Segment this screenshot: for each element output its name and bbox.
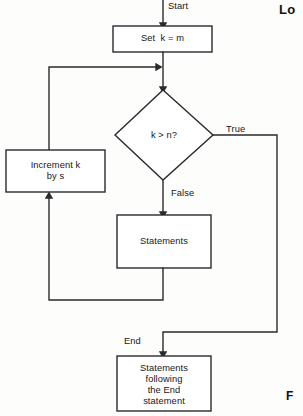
edge-label-start: Start [168,1,208,12]
flowchart-figure: Set k = m k > n? Increment k by s Statem… [0,0,303,416]
node-set-k-label: Set k = m [113,33,212,44]
node-increment-label: Increment k by s [6,160,105,182]
figure-caption-fragment: F [286,389,294,403]
node-decision-label: k > n? [115,130,213,141]
node-statements-label: Statements [117,236,211,247]
figure-title-fragment: Lo [279,2,295,17]
flowchart-canvas [0,0,303,416]
node-final-statements-label: Statements following the End statement [117,363,211,407]
edge-label-end: End [124,336,158,347]
edge-label-false: False [171,188,211,199]
edge-label-true: True [226,124,266,135]
